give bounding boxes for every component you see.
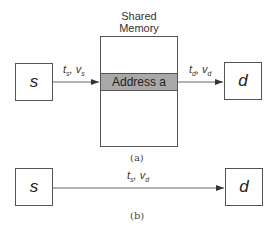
dest-node-b-label: d <box>239 177 248 197</box>
dest-node-a: d <box>224 62 262 100</box>
source-node-b-label: s <box>30 177 39 197</box>
dest-node-a-label: d <box>238 71 247 91</box>
edge-in-v-sub: s <box>81 70 85 77</box>
address-a-slot: Address a <box>100 73 178 91</box>
shared-memory-title-line1: Shared <box>100 10 178 22</box>
caption-a: (a) <box>130 152 144 163</box>
shared-memory-title: Shared Memory <box>100 10 178 34</box>
caption-b: (b) <box>130 210 144 221</box>
edge-b-label: ts, vd <box>127 169 149 183</box>
shared-memory-title-line2: Memory <box>100 22 178 34</box>
edge-out-label: td, vd <box>189 63 212 77</box>
dest-node-b: d <box>225 168 263 206</box>
source-node-b: s <box>15 168 53 206</box>
shared-memory-box <box>100 36 178 147</box>
address-a-label: Address a <box>112 75 166 89</box>
source-node-a-label: s <box>30 72 39 92</box>
edge-in-label: ts, vs <box>63 63 85 77</box>
edge-out-v-sub: d <box>208 70 212 77</box>
source-node-a: s <box>15 63 53 101</box>
edge-b-v-sub: d <box>145 176 149 183</box>
